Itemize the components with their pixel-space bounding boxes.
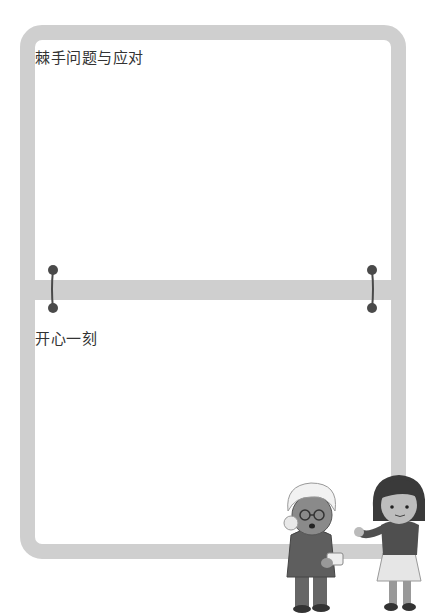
girl-figure [354,475,425,611]
section-title-tricky-problems: 棘手问题与应对 [35,46,144,67]
grandma-and-girl-illustration [255,425,425,613]
section-divider [20,280,406,300]
grandma-figure [284,483,343,613]
binder-ring-right-icon [365,265,379,313]
section-title-happy-moment: 开心一刻 [35,327,97,348]
binder-ring-left-icon [46,265,60,313]
